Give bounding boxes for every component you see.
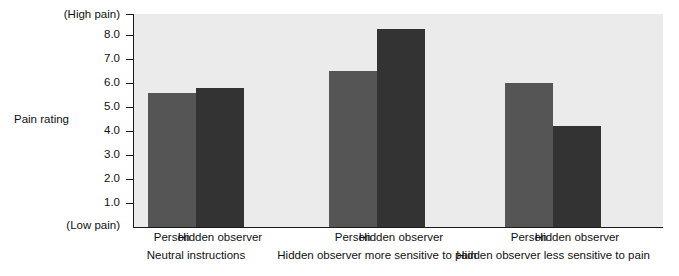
bar-label-2-hidden-observer: Hidden observer: [535, 231, 619, 243]
group-label-1: Hidden observer more sensitive to pain: [277, 249, 476, 261]
y-axis-label-2.0: 2.0: [0, 172, 120, 184]
y-axis-tick-4.0: [126, 131, 133, 132]
bar-2-hidden-observer: [553, 126, 601, 227]
bar-2-person: [505, 83, 553, 227]
y-axis-label-1.0: 1.0: [0, 196, 120, 208]
bar-0-hidden-observer: [196, 88, 244, 227]
y-axis-label-7.0: 7.0: [0, 52, 120, 64]
y-axis-tick-top: [126, 14, 133, 15]
y-axis-label-5.0: 5.0: [0, 100, 120, 112]
y-axis-tick-7.0: [126, 59, 133, 60]
group-label-0: Neutral instructions: [147, 249, 245, 261]
y-axis-line: [133, 14, 134, 228]
x-axis-line: [133, 227, 663, 228]
bar-chart: (High pain)8.07.06.05.04.03.02.01.0(Low …: [0, 0, 679, 276]
y-axis-low-pain-label: (Low pain): [0, 219, 120, 231]
y-axis-tick-5.0: [126, 107, 133, 108]
y-axis-tick-8.0: [126, 35, 133, 36]
y-axis-label-6.0: 6.0: [0, 76, 120, 88]
bar-1-person: [329, 71, 377, 227]
bar-0-person: [148, 93, 196, 227]
y-axis-tick-2.0: [126, 179, 133, 180]
group-label-2: Hidden observer less sensitive to pain: [456, 249, 650, 261]
y-axis-title: Pain rating: [14, 113, 69, 125]
bar-1-hidden-observer: [377, 29, 425, 227]
bar-label-0-hidden-observer: Hidden observer: [178, 231, 262, 243]
y-axis-high-pain-label: (High pain): [0, 8, 120, 20]
y-axis-tick-6.0: [126, 83, 133, 84]
y-axis-tick-3.0: [126, 155, 133, 156]
bar-label-1-hidden-observer: Hidden observer: [359, 231, 443, 243]
y-axis-label-4.0: 4.0: [0, 124, 120, 136]
y-axis-label-3.0: 3.0: [0, 148, 120, 160]
y-axis-tick-1.0: [126, 203, 133, 204]
bars-layer: [133, 14, 663, 227]
y-axis-label-8.0: 8.0: [0, 28, 120, 40]
